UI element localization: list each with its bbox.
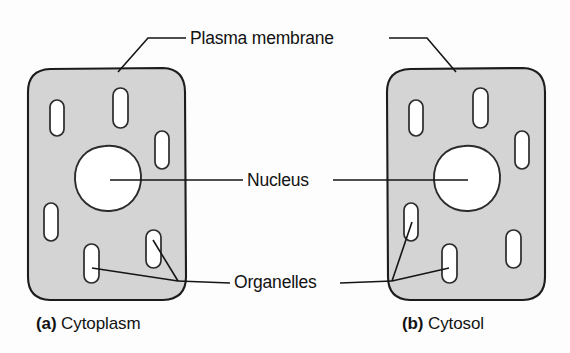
cell-a-organelle-3 — [155, 131, 169, 169]
cell-b-organelle-5 — [442, 244, 457, 283]
panel-name-a: Cytoplasm — [61, 314, 140, 333]
panel-name-b: Cytosol — [428, 314, 484, 333]
cell-a-nucleus — [75, 146, 141, 211]
cell-b-nucleus — [434, 146, 500, 211]
cell-a-organelle-5 — [84, 244, 99, 283]
panel-caption-b: (b) Cytosol — [402, 314, 484, 334]
cell-b-organelle-4 — [404, 203, 418, 241]
leader-organelles-right-trunk — [340, 281, 392, 283]
label-organelles: Organelles — [234, 272, 317, 293]
cell-b-group — [387, 68, 545, 300]
cell-b-organelle-1 — [409, 100, 423, 136]
cell-a-organelle-1 — [50, 100, 64, 136]
cell-b-organelle-6 — [506, 230, 521, 268]
cell-b-organelle-2 — [473, 88, 488, 128]
panel-letter-b: (b) — [402, 314, 423, 333]
cell-a-organelle-2 — [113, 88, 128, 128]
label-nucleus: Nucleus — [247, 170, 309, 191]
cell-b-organelle-3 — [515, 131, 529, 169]
panel-caption-a: (a) Cytoplasm — [36, 314, 141, 334]
panel-letter-a: (a) — [36, 314, 56, 333]
cell-diagram-figure: Plasma membrane Nucleus Organelles (a) C… — [0, 0, 570, 353]
leader-plasma-membrane-right — [389, 38, 456, 72]
cell-a-group — [28, 68, 186, 300]
cell-a-organelle-4 — [44, 203, 58, 241]
label-plasma-membrane: Plasma membrane — [190, 28, 334, 49]
leader-plasma-membrane-left — [118, 38, 186, 72]
